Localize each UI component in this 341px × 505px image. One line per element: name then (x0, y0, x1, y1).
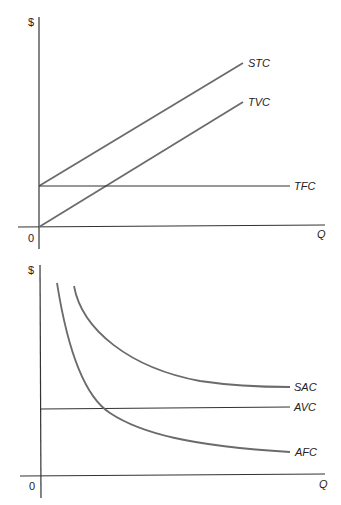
tvc-label: TVC (248, 96, 270, 108)
avc-line (40, 407, 290, 409)
bottom-y-axis (40, 265, 41, 498)
stc-line (39, 63, 243, 186)
afc-curve (57, 283, 290, 452)
bottom-x-axis-label: Q (319, 478, 328, 490)
sac-label: SAC (294, 381, 317, 393)
cost-curves-figure: $ 0 Q STC TVC TFC $ 0 Q SAC AVC AFC (0, 0, 341, 505)
avc-label: AVC (293, 401, 316, 413)
total-cost-chart: $ 0 Q STC TVC TFC (18, 16, 326, 249)
bottom-x-axis (20, 474, 325, 476)
tfc-label: TFC (294, 180, 315, 192)
top-x-axis (18, 225, 325, 227)
sac-curve (74, 286, 290, 387)
bottom-y-axis-label: $ (28, 264, 34, 276)
top-x-axis-label: Q (317, 228, 326, 240)
top-origin-label: 0 (28, 232, 34, 244)
average-cost-chart: $ 0 Q SAC AVC AFC (20, 264, 328, 498)
top-y-axis-label: $ (28, 16, 34, 28)
afc-label: AFC (294, 446, 317, 458)
bottom-origin-label: 0 (29, 480, 35, 492)
tvc-line (39, 102, 243, 227)
stc-label: STC (248, 57, 270, 69)
